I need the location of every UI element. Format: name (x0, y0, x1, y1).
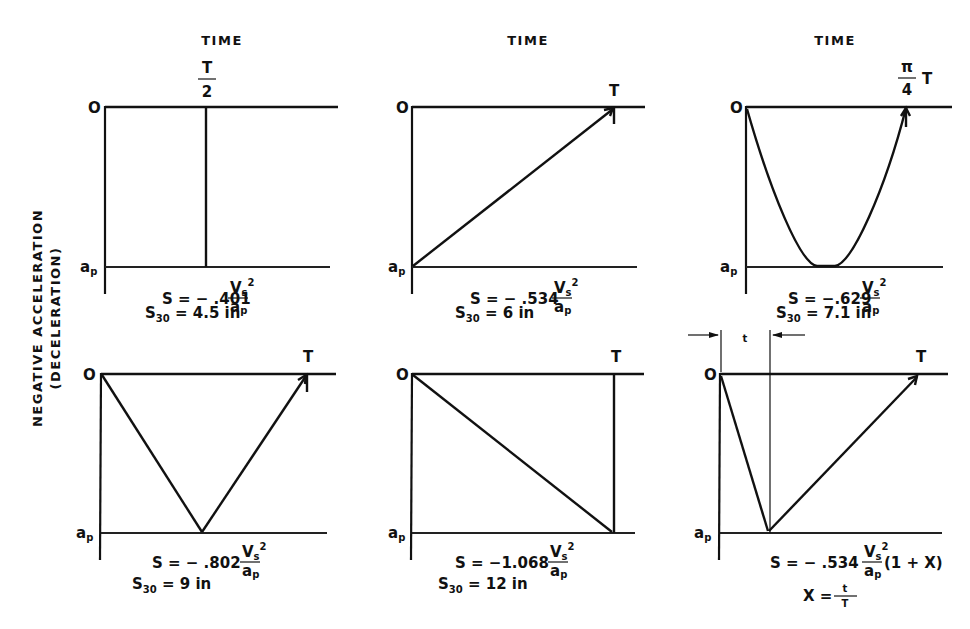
svg-text:ap: ap (864, 562, 881, 580)
s30-value: S30 = 4.5 in (145, 304, 240, 324)
column-header-3: TIME (814, 33, 856, 48)
svg-text:T: T (916, 348, 927, 366)
panel-half-sine: O ap π 4 T S = −.629 Vs2 ap S30 = 7.1 in (720, 58, 952, 324)
svg-text:t: t (843, 583, 848, 594)
tick-peak: ap (80, 258, 97, 277)
panel-ramp-up: O ap T S = − .534 Vs2 ap S30 = 6 in (388, 82, 645, 324)
svg-text:ap: ap (242, 562, 259, 580)
s-equation: S = − .534 (770, 554, 859, 572)
svg-text:Vs2: Vs2 (554, 277, 579, 298)
svg-text:T: T (922, 70, 933, 88)
y-axis-label: NEGATIVE ACCELERATION (DECELERATION) (30, 209, 63, 427)
tick-zero: O (88, 99, 101, 117)
svg-text:2: 2 (202, 83, 212, 101)
svg-text:O: O (396, 99, 409, 117)
svg-text:Vs2: Vs2 (230, 277, 255, 298)
svg-text:T: T (609, 82, 620, 100)
panel-ramp-down: O ap T S = −1.068 Vs2 ap S30 = 12 in (388, 348, 644, 595)
svg-text:ap: ap (76, 524, 93, 543)
rise-time-label: t (743, 333, 748, 344)
svg-text:Vs2: Vs2 (862, 277, 887, 298)
x-definition: X = (803, 587, 832, 605)
svg-text:O: O (83, 366, 96, 384)
s30-value: S30 = 6 in (455, 304, 534, 324)
s30-value: S30 = 12 in (438, 575, 528, 595)
svg-text:ap: ap (720, 258, 737, 277)
svg-text:π: π (901, 58, 913, 76)
svg-text:(DECELERATION): (DECELERATION) (48, 247, 63, 390)
svg-text:Vs2: Vs2 (242, 541, 267, 562)
svg-text:T: T (611, 348, 622, 366)
svg-text:T: T (202, 59, 213, 77)
svg-text:O: O (730, 99, 743, 117)
s30-value: S30 = 9 in (132, 575, 211, 595)
svg-text:ap: ap (694, 524, 711, 543)
svg-text:T: T (842, 598, 849, 609)
svg-text:4: 4 (902, 81, 912, 99)
column-header-1: TIME (201, 33, 243, 48)
s-equation: S = − .802 (152, 554, 241, 572)
svg-text:O: O (396, 366, 409, 384)
svg-text:Vs2: Vs2 (550, 541, 575, 562)
panel-skewed-triangle: t O ap T S = − .534 Vs2 ap (1 + X) X = t… (688, 330, 948, 609)
panel-symmetric-triangle: O ap T S = − .802 Vs2 ap S30 = 9 in (76, 348, 336, 595)
svg-text:ap: ap (388, 258, 405, 277)
svg-text:O: O (704, 366, 717, 384)
svg-text:ap: ap (550, 562, 567, 580)
column-header-2: TIME (507, 33, 549, 48)
svg-text:(1 + X): (1 + X) (884, 554, 943, 572)
svg-text:ap: ap (554, 298, 571, 316)
s-equation: S = −1.068 (455, 554, 549, 572)
panel-square-pulse: O ap T 2 S = − .401 Vs2 ap S30 = 4.5 in (80, 59, 338, 324)
svg-text:T: T (303, 348, 314, 366)
svg-text:ap: ap (388, 524, 405, 543)
deceleration-pulse-diagram: NEGATIVE ACCELERATION (DECELERATION) TIM… (0, 0, 970, 629)
svg-text:NEGATIVE ACCELERATION: NEGATIVE ACCELERATION (30, 209, 45, 427)
